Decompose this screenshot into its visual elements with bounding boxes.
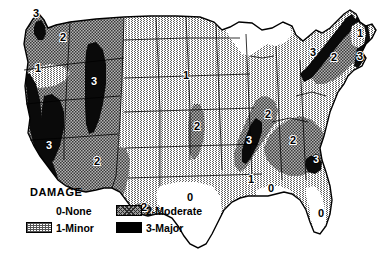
zone-label-northern-maine: 1 — [357, 27, 363, 39]
zone-label-florida: 0 — [318, 207, 324, 219]
zone-label-lower-mississippi: 1 — [248, 173, 254, 185]
legend-item-moderate: 2-Moderate — [116, 205, 206, 217]
zone-label-intermountain-belt: 3 — [91, 75, 97, 87]
legend-swatch-moderate — [116, 205, 142, 216]
legend-item-major: 3-Major — [116, 222, 206, 234]
zone-label-eastern-oregon: 1 — [35, 62, 41, 74]
legend-swatch-minor — [26, 222, 52, 233]
zone-label-gulf-coast: 0 — [268, 182, 274, 194]
legend-swatch-major — [116, 222, 142, 233]
zone-label-coastal-new-england: 3 — [357, 50, 363, 62]
legend-row-bottom: 1-Minor 3-Major — [26, 219, 206, 236]
zone-label-new-england: 2 — [331, 51, 337, 63]
zone-label-california-coast: 3 — [46, 139, 52, 151]
zone-label-adirondack: 3 — [310, 46, 316, 58]
legend-item-none: 0-None — [26, 205, 116, 217]
legend-row-top: 0-None 2-Moderate — [26, 202, 206, 219]
legend-swatch-none — [26, 205, 52, 216]
zone-label-southwest-arizona: 2 — [94, 155, 100, 167]
legend-label-none: 0-None — [56, 205, 92, 217]
legend-label-moderate: 2-Moderate — [146, 205, 202, 217]
legend-label-minor: 1-Minor — [56, 222, 94, 234]
legend-item-minor: 1-Minor — [26, 222, 116, 234]
zone-label-pacific-northwest: 2 — [60, 31, 66, 43]
zone-label-new-madrid: 3 — [246, 134, 252, 146]
legend-heading: DAMAGE — [30, 186, 206, 198]
zone-label-puget-sound: 3 — [33, 7, 39, 19]
zone-label-southern-appalach: 2 — [290, 134, 296, 146]
zone-label-northern-plains: 1 — [183, 69, 189, 81]
zone-label-charleston-sc: 3 — [313, 153, 319, 165]
zone-label-missouri-river: 2 — [194, 120, 200, 132]
zone-label-wabash-valley: 2 — [265, 108, 271, 120]
seismic-damage-map: 321332122032102303231 DAMAGE 0-None 2-Mo… — [0, 0, 387, 262]
legend-label-major: 3-Major — [146, 222, 183, 234]
legend: DAMAGE 0-None 2-Moderate 1-Minor 3-Major — [26, 186, 206, 236]
